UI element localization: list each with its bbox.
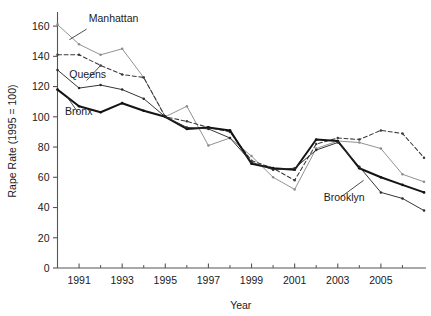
data-point-brooklyn [186,126,189,128]
data-point-brooklyn [315,149,318,152]
data-point-queens [423,156,426,159]
series-line-queens [58,55,425,180]
data-point-bronx [315,138,318,141]
data-point-manhattan [78,43,81,46]
y-axis-title: Rape Rate (1995 = 100) [6,85,18,198]
data-point-bronx [99,111,102,114]
data-point-queens [337,137,340,140]
data-point-manhattan [380,147,383,150]
chart-figure: 0204060801001201401601991199319951997199… [0,0,431,316]
rape-rate-line-chart: 0204060801001201401601991199319951997199… [0,0,431,316]
data-point-bronx [56,88,59,91]
data-point-bronx [121,102,124,105]
leader-line-manhattan [69,29,86,40]
y-tick-label: 80 [38,141,50,153]
series-label-brooklyn: Brooklyn [324,191,365,203]
y-tick-label: 120 [32,80,50,92]
data-point-brooklyn [207,128,210,131]
x-tick-label: 2001 [283,274,307,286]
data-point-manhattan [293,188,296,191]
data-point-brooklyn [121,88,124,91]
y-tick-label: 20 [38,232,50,244]
series-label-queens: Queens [69,68,106,80]
x-tick-label: 1999 [240,274,264,286]
data-point-brooklyn [401,197,404,200]
data-point-brooklyn [99,84,102,87]
data-point-bronx [401,183,404,186]
data-point-queens [121,73,124,76]
data-point-manhattan [186,105,189,108]
series-label-bronx: Bronx [65,105,93,117]
data-point-brooklyn [337,141,340,144]
x-tick-label: 1997 [197,274,221,286]
series-line-bronx [58,90,425,193]
data-point-brooklyn [56,69,59,72]
data-point-manhattan [358,141,361,144]
series-line-brooklyn [58,70,425,211]
data-point-manhattan [250,155,253,158]
x-tick-label: 1991 [67,274,91,286]
data-point-manhattan [207,144,210,147]
y-tick-label: 40 [38,201,50,213]
data-point-queens [358,138,361,141]
data-point-manhattan [272,176,275,179]
y-tick-label: 60 [38,171,50,183]
data-point-queens [293,179,296,182]
x-tick-label: 2005 [369,274,393,286]
data-point-bronx [142,109,145,112]
y-tick-label: 140 [32,50,50,62]
data-point-brooklyn [229,137,232,140]
data-point-manhattan [423,181,426,184]
data-point-queens [401,132,404,135]
data-point-brooklyn [423,209,426,212]
x-tick-label: 1995 [154,274,178,286]
y-tick-label: 0 [44,262,50,274]
data-point-brooklyn [380,191,383,194]
x-tick-label: 2003 [326,274,350,286]
data-point-brooklyn [293,167,296,170]
data-point-bronx [229,129,232,132]
data-point-manhattan [99,54,102,57]
data-point-brooklyn [164,116,167,119]
data-point-queens [186,120,189,123]
y-tick-label: 160 [32,20,50,32]
data-point-queens [56,54,59,57]
series-label-manhattan: Manhattan [89,12,139,24]
data-point-manhattan [401,173,404,176]
data-point-brooklyn [142,97,145,100]
data-point-manhattan [56,23,59,26]
data-point-queens [380,129,383,132]
data-point-brooklyn [78,87,81,90]
x-axis-title: Year [230,299,252,311]
data-point-bronx [380,176,383,179]
data-point-brooklyn [358,165,361,168]
x-tick-label: 1993 [110,274,134,286]
data-point-brooklyn [272,168,275,171]
data-point-queens [142,76,145,79]
data-point-queens [315,143,318,146]
data-point-bronx [423,191,426,194]
y-tick-label: 100 [32,111,50,123]
data-point-brooklyn [250,161,253,164]
data-point-queens [78,54,81,57]
data-point-manhattan [121,48,124,51]
